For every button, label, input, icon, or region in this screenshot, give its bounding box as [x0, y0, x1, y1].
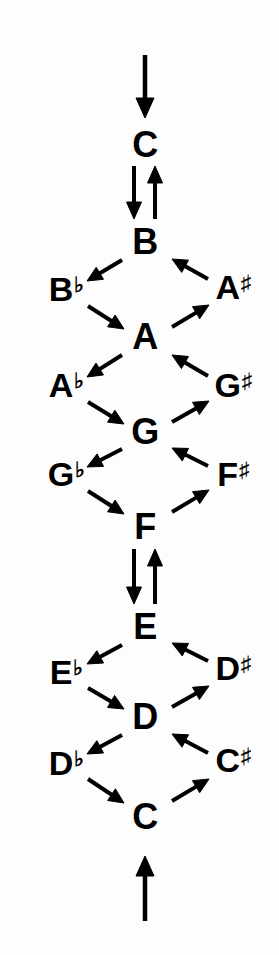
- note-base-a: A: [132, 316, 158, 357]
- diagonal-arrow-asharp-to-b: [172, 259, 208, 279]
- note-base-b: B: [132, 221, 158, 262]
- diagonal-arrow-d-to-dsharp: [172, 686, 209, 707]
- diagonal-arrow-a-to-asharp-head: [193, 305, 209, 319]
- diagonal-arrow-f-to-fsharp-shaft: [172, 497, 198, 512]
- diagonal-arrow-c-to-csharp-head: [193, 779, 209, 793]
- note-label-b: B: [132, 224, 158, 260]
- diagonal-arrow-a-to-aflat-shaft: [98, 355, 122, 370]
- diagonal-arrow-eflat-to-d: [88, 688, 124, 709]
- flat-icon-a-flat: ♭: [74, 369, 84, 392]
- vertical-arrow-entry-arrow-top-head: [136, 98, 154, 118]
- note-label-e-flat: E♭: [50, 655, 83, 689]
- sharp-icon-g-sharp: ♯: [241, 369, 251, 392]
- sharp-icon-a-sharp: ♯: [241, 271, 251, 294]
- diagonal-arrow-e-to-eflat-shaft: [98, 645, 122, 658]
- note-base-d: D: [132, 696, 158, 737]
- diagonal-arrow-fsharp-to-g: [172, 448, 208, 466]
- diagonal-arrow-g-to-gsharp: [172, 401, 209, 422]
- note-label-c-bottom: C: [132, 799, 158, 835]
- diagonal-arrow-csharp-to-d-head: [172, 734, 189, 747]
- note-label-f: F: [134, 509, 156, 545]
- diagonal-arrow-aflat-to-g-shaft: [88, 402, 113, 417]
- note-base-c-top: C: [132, 124, 158, 165]
- diagonal-arrow-dflat-to-c: [88, 779, 124, 803]
- diagonal-arrow-gflat-to-f: [88, 491, 124, 514]
- sharp-icon-c-sharp: ♯: [241, 744, 251, 767]
- diagonal-arrow-e-to-eflat: [87, 645, 122, 664]
- note-label-g-sharp: G♯: [215, 368, 252, 402]
- diagonal-arrow-c-to-csharp: [172, 779, 209, 801]
- vertical-arrow-entry-arrow-bottom: [136, 856, 154, 921]
- vertical-arrow-c-to-b-down: [127, 166, 142, 219]
- note-label-d-sharp: D♯: [215, 651, 250, 685]
- diagonal-arrow-gsharp-to-a-head: [172, 355, 188, 369]
- diagonal-arrow-gsharp-to-a-shaft: [183, 362, 208, 376]
- flat-icon-b-flat: ♭: [74, 273, 84, 296]
- note-label-d-flat: D♭: [49, 746, 84, 780]
- sharp-icon-f-sharp: ♯: [239, 458, 249, 481]
- note-base-c-sharp: C: [215, 741, 239, 779]
- note-label-g: G: [131, 414, 159, 450]
- note-base-a-flat: A: [49, 366, 73, 404]
- note-label-e: E: [133, 609, 157, 645]
- diagonal-arrow-eflat-to-d-shaft: [88, 688, 113, 702]
- note-label-a-flat: A♭: [49, 368, 84, 402]
- diagonal-arrow-gsharp-to-a: [172, 355, 208, 376]
- diagonal-arrow-g-to-gflat-shaft: [99, 449, 122, 461]
- note-label-c-top: C: [132, 127, 158, 163]
- diagonal-arrow-d-to-dsharp-shaft: [172, 692, 198, 707]
- diagonal-arrow-a-to-asharp-shaft: [172, 312, 198, 327]
- diagonal-arrow-asharp-to-b-shaft: [183, 265, 208, 279]
- diagonal-arrow-e-to-eflat-head: [87, 651, 104, 664]
- vertical-arrow-e-to-f-up-head: [148, 549, 163, 566]
- note-base-e-flat: E: [50, 653, 72, 691]
- diagonal-arrow-aflat-to-g-head: [108, 410, 124, 424]
- diagonal-arrow-g-to-gsharp-shaft: [172, 407, 198, 422]
- note-base-e: E: [133, 606, 157, 647]
- diagonal-arrow-dsharp-to-e-shaft: [184, 649, 208, 661]
- note-label-f-sharp: F♯: [217, 457, 248, 491]
- diagonal-arrow-bflat-to-a-head: [108, 315, 124, 329]
- diagonal-arrow-gflat-to-f-shaft: [88, 491, 113, 507]
- diagonal-arrow-bflat-to-a: [88, 306, 124, 329]
- vertical-arrow-f-to-e-down-head: [127, 587, 142, 604]
- note-base-f: F: [134, 506, 156, 547]
- note-label-c-sharp: C♯: [215, 743, 250, 777]
- diagonal-arrow-a-to-asharp: [172, 305, 209, 327]
- diagonal-arrow-f-to-fsharp-head: [193, 490, 209, 504]
- diagonal-arrow-b-to-bflat-shaft: [98, 260, 122, 274]
- sharp-icon-d-sharp: ♯: [241, 652, 251, 675]
- vertical-arrow-c-to-b-down-head: [127, 202, 142, 219]
- diagonal-arrow-b-to-bflat-head: [87, 267, 103, 281]
- diagonal-arrow-csharp-to-d-shaft: [183, 740, 208, 753]
- diagonal-arrow-g-to-gsharp-head: [192, 401, 209, 414]
- note-base-d-flat: D: [49, 744, 73, 782]
- diagonal-arrow-a-to-aflat-head: [87, 363, 103, 377]
- note-label-a-sharp: A♯: [215, 270, 250, 304]
- note-base-f-sharp: F: [217, 455, 237, 493]
- diagonal-arrow-fsharp-to-g-shaft: [184, 454, 208, 466]
- diagonal-arrow-a-to-aflat: [87, 355, 122, 377]
- diagonal-arrow-dflat-to-c-head: [108, 789, 124, 803]
- diagonal-arrow-asharp-to-b-head: [172, 259, 189, 272]
- vertical-arrow-f-to-e-down: [127, 549, 142, 604]
- diagonal-arrow-c-to-csharp-shaft: [172, 786, 198, 801]
- vertical-arrow-b-to-c-up: [148, 166, 163, 219]
- diagonal-arrow-d-to-dflat-head: [87, 741, 104, 754]
- note-base-a-sharp: A: [215, 268, 239, 306]
- diagonal-arrow-d-to-dflat: [87, 735, 122, 754]
- diagonal-arrow-dflat-to-c-shaft: [88, 779, 113, 796]
- diagonal-arrow-gflat-to-f-head: [108, 500, 124, 514]
- chromatic-ladder-diagram: CBAGFEDCB♭A♭G♭E♭D♭A♯G♯F♯D♯C♯: [0, 0, 279, 955]
- diagonal-arrow-b-to-bflat: [87, 260, 122, 281]
- flat-icon-e-flat: ♭: [73, 656, 83, 679]
- diagonal-arrow-eflat-to-d-head: [108, 695, 124, 709]
- diagonal-arrow-csharp-to-d: [172, 734, 208, 753]
- vertical-arrow-entry-arrow-bottom-head: [136, 856, 154, 876]
- vertical-arrow-entry-arrow-top: [136, 55, 154, 118]
- diagonal-arrow-d-to-dflat-shaft: [98, 735, 122, 748]
- diagonal-arrow-g-to-gflat: [87, 449, 122, 467]
- vertical-arrow-b-to-c-up-head: [148, 166, 163, 183]
- note-base-b-flat: B: [49, 270, 73, 308]
- diagonal-arrow-d-to-dsharp-head: [192, 686, 209, 699]
